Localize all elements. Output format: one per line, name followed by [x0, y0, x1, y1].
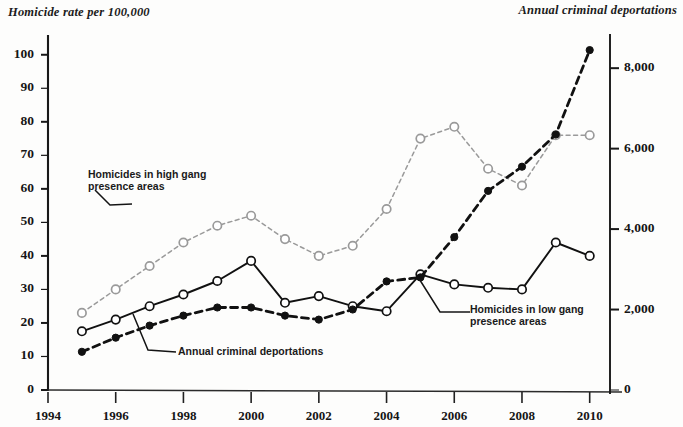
x-axis-tick-label: 2008 [499, 408, 545, 424]
leader-high-gang [95, 190, 132, 205]
data-point-marker [315, 292, 323, 300]
left-axis-tick-label: 10 [0, 347, 34, 363]
data-point-marker [552, 238, 560, 246]
right-axis-tick-label: 4,000 [624, 220, 674, 236]
data-point-marker [518, 285, 526, 293]
annot-high-gang-line2: presence areas [88, 180, 206, 192]
data-point-marker [248, 304, 255, 311]
data-point-marker [146, 322, 153, 329]
left-axis-tick-label: 0 [0, 381, 34, 397]
data-point-marker [78, 309, 86, 317]
data-point-marker [112, 285, 120, 293]
data-point-marker [179, 290, 187, 298]
data-point-marker [179, 238, 187, 246]
x-axis-tick-label: 1996 [93, 408, 139, 424]
data-point-marker [145, 262, 153, 270]
data-point-marker [383, 278, 390, 285]
bottom-axis-spine [48, 390, 622, 392]
data-point-marker [145, 302, 153, 310]
data-point-marker [349, 306, 356, 313]
data-point-marker [586, 252, 594, 260]
right-axis-tick-label: 8,000 [624, 59, 674, 75]
x-axis-tick-label: 2006 [431, 408, 477, 424]
right-axis-tick-label: 2,000 [624, 301, 674, 317]
data-point-marker [112, 315, 120, 323]
annot-low-gang-line1: Homicides in low gang [470, 303, 584, 315]
left-axis-tick-label: 60 [0, 180, 34, 196]
data-point-marker [247, 212, 255, 220]
right-axis-tick-label: 0 [624, 381, 674, 397]
left-axis-tick-label: 50 [0, 213, 34, 229]
data-point-marker [382, 307, 390, 315]
data-point-marker [180, 312, 187, 319]
left-axis-tick-label: 80 [0, 113, 34, 129]
annot-deportations: Annual criminal deportations [178, 345, 323, 357]
x-axis-tick-label: 2010 [567, 408, 613, 424]
left-axis-tick-label: 30 [0, 280, 34, 296]
data-point-marker [349, 242, 357, 250]
x-axis-tick-label: 1994 [25, 408, 71, 424]
x-axis-tick-label: 1998 [160, 408, 206, 424]
data-point-marker [281, 235, 289, 243]
data-point-marker [213, 277, 221, 285]
data-point-marker [484, 165, 492, 173]
annot-deportations-line1: Annual criminal deportations [178, 345, 323, 357]
annot-high-gang-line1: Homicides in high gang [88, 168, 206, 180]
x-axis-tick-label: 2000 [228, 408, 274, 424]
left-axis-tick-label: 90 [0, 79, 34, 95]
annot-low-gang: Homicides in low gangpresence areas [470, 303, 584, 327]
data-point-marker [552, 131, 559, 138]
right-axis-tick-label: 6,000 [624, 140, 674, 156]
data-point-marker [450, 280, 458, 288]
x-axis-tick-label: 2002 [296, 408, 342, 424]
data-point-marker [586, 131, 594, 139]
annot-low-gang-line2: presence areas [470, 315, 584, 327]
left-axis-tick-label: 70 [0, 146, 34, 162]
data-point-marker [112, 334, 119, 341]
series-line-0 [82, 127, 590, 313]
data-point-marker [484, 284, 492, 292]
data-point-marker [78, 348, 85, 355]
data-point-marker [485, 187, 492, 194]
annot-high-gang: Homicides in high gangpresence areas [88, 168, 206, 192]
leader-deportations [133, 314, 176, 352]
data-point-marker [416, 134, 424, 142]
x-axis-tick-label: 2004 [364, 408, 410, 424]
data-point-marker [382, 205, 390, 213]
data-point-marker [247, 257, 255, 265]
data-point-marker [450, 123, 458, 131]
chart-plot-area [0, 0, 683, 427]
chart-figure: Homicide rate per 100,000 Annual crimina… [0, 0, 683, 427]
data-point-marker [518, 181, 526, 189]
left-axis-tick-label: 20 [0, 314, 34, 330]
data-point-marker [518, 163, 525, 170]
data-point-marker [281, 299, 289, 307]
data-point-marker [315, 316, 322, 323]
left-axis-tick-label: 40 [0, 247, 34, 263]
data-point-marker [214, 304, 221, 311]
data-point-marker [213, 222, 221, 230]
data-point-marker [281, 312, 288, 319]
series-markers-0 [78, 123, 594, 317]
data-point-marker [78, 327, 86, 335]
data-point-marker [586, 47, 593, 54]
data-point-marker [451, 234, 458, 241]
data-point-marker [315, 252, 323, 260]
left-axis-tick-label: 100 [0, 46, 34, 62]
